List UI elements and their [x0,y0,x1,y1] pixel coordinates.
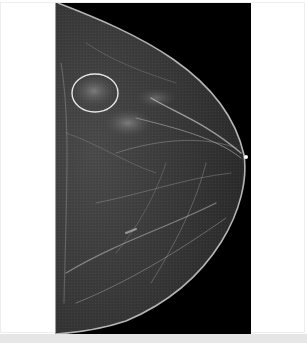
mammogram-image [55,3,251,334]
image-frame [0,0,307,334]
breast-tissue-graphic [56,3,251,334]
nipple-marker-dot [244,155,248,159]
bottom-strip [0,334,307,343]
